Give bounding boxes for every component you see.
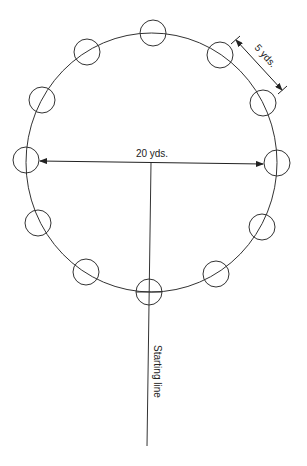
diameter-label: 20 yds. bbox=[136, 148, 168, 159]
spacing-label: 5 yds. bbox=[253, 42, 279, 69]
station-5 bbox=[249, 214, 275, 240]
station-12 bbox=[74, 39, 100, 65]
circle-drill-diagram: 20 yds. Starting line 5 yds. bbox=[0, 0, 307, 466]
station-2 bbox=[207, 42, 233, 68]
station-9 bbox=[25, 210, 51, 236]
station-8 bbox=[73, 259, 99, 285]
diameter-arrow bbox=[40, 161, 263, 164]
starting-line-label: Starting line bbox=[152, 345, 163, 398]
